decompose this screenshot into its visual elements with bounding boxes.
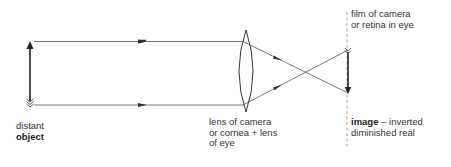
ray-top (34, 40, 348, 93)
image-arrow (345, 48, 351, 94)
object-label-line1: distant (16, 121, 44, 132)
lens-label: lens of camera or cornea + lens of eye (209, 117, 277, 149)
image-label-line2: diminished real (351, 128, 423, 139)
image-label-rest: – inverted (378, 116, 422, 127)
object-label-line2: object (16, 132, 44, 143)
lens-label-line1: lens of camera (209, 117, 277, 128)
image-label: image – inverted diminished real (351, 117, 423, 138)
object-arrow (27, 41, 34, 107)
image-label-line1: image – inverted (351, 117, 423, 128)
screen-label-line1: film of camera (351, 9, 414, 20)
object-label: distant object (16, 121, 44, 142)
ray-bottom (34, 50, 348, 107)
screen-label-line2: or retina in eye (351, 20, 414, 31)
image-label-bold: image (351, 116, 378, 127)
lens-label-line3: of eye (209, 138, 277, 149)
convex-lens (239, 30, 253, 112)
screen-label: film of camera or retina in eye (351, 9, 414, 30)
